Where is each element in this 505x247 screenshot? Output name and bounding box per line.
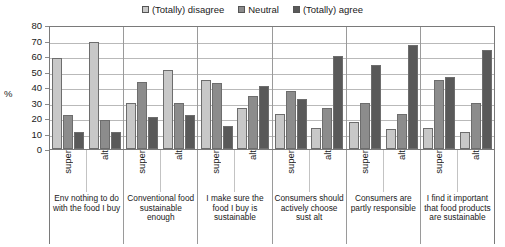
y-axis-tick-label: 10: [31, 130, 42, 140]
subgroup-tick-alt: alt: [87, 150, 123, 192]
bar-neutral: [286, 91, 296, 149]
subgroup-tick-alt: alt: [310, 150, 346, 192]
bar-neutral: [397, 114, 407, 149]
bar-agree: [111, 132, 121, 149]
bar-agree: [371, 65, 381, 149]
bar-subgroup-alt: [161, 27, 198, 150]
bar-subgroup-super: [273, 27, 310, 150]
subgroup-tick-alt: alt: [235, 150, 271, 192]
bar-neutral: [63, 115, 73, 149]
bar-neutral: [100, 120, 110, 149]
y-axis-tick-mark: [45, 26, 49, 27]
y-axis-tick-label: 30: [31, 99, 42, 109]
bar-group: [198, 27, 272, 150]
legend-label-neutral: Neutral: [248, 4, 279, 15]
legend-item-agree: (Totally) agree: [293, 4, 363, 15]
subgroup-tick-group: superalt: [50, 150, 124, 192]
y-axis-tick-label: 50: [31, 68, 42, 78]
legend-item-neutral: Neutral: [238, 4, 279, 15]
bar-disagree: [89, 42, 99, 149]
subgroup-tick-group: superalt: [273, 150, 347, 192]
subgroup-tick-label: alt: [248, 150, 258, 162]
bar-disagree: [237, 108, 247, 149]
y-axis-tick-label: 60: [31, 52, 42, 62]
chart-legend: (Totally) disagree Neutral (Totally) agr…: [0, 4, 505, 15]
bar-agree: [185, 115, 195, 149]
bar-disagree: [201, 80, 211, 149]
subgroup-tick-super: super: [421, 150, 458, 192]
category-label: Env nothing to do with the food I buy: [50, 192, 124, 244]
subgroup-tick-label: alt: [323, 150, 333, 162]
category-label: Consumers should actively choose sust al…: [273, 192, 347, 244]
subgroup-tick-label: super: [137, 150, 147, 176]
bar-neutral: [137, 82, 147, 149]
subgroup-tick-label: super: [211, 150, 221, 176]
bar-subgroup-alt: [87, 27, 124, 150]
y-axis-tick-mark: [45, 88, 49, 89]
subgroup-tick-group: superalt: [124, 150, 198, 192]
y-axis-tick-mark: [45, 73, 49, 74]
category-label: Consumers are partly responsible: [347, 192, 421, 244]
bar-subgroup-alt: [235, 27, 272, 150]
y-axis-tick-label: 40: [31, 83, 42, 93]
bar-agree: [445, 77, 455, 149]
bar-neutral: [174, 103, 184, 149]
bar-group: [421, 27, 494, 150]
plot-area: [49, 26, 495, 150]
legend-item-disagree: (Totally) disagree: [142, 4, 224, 15]
subgroup-tick-super: super: [198, 150, 235, 192]
subgroup-tick-label: alt: [174, 150, 184, 162]
bar-neutral: [360, 103, 370, 149]
bar-neutral: [434, 80, 444, 149]
bar-subgroup-super: [50, 27, 87, 150]
subgroup-tick-super: super: [273, 150, 310, 192]
bar-disagree: [311, 128, 321, 149]
bar-subgroup-super: [421, 27, 458, 150]
bar-groups: [50, 27, 494, 150]
y-axis-tick-labels: 80706050403020100: [20, 26, 42, 150]
subgroup-tick-label: alt: [471, 150, 481, 162]
bar-disagree: [163, 70, 173, 149]
bar-agree: [259, 86, 269, 149]
bar-agree: [333, 56, 343, 149]
subgroup-tick-super: super: [124, 150, 161, 192]
bar-neutral: [212, 83, 222, 149]
bar-disagree: [423, 128, 433, 149]
bar-subgroup-alt: [309, 27, 346, 150]
subgroup-tick-label: super: [434, 150, 444, 176]
bar-agree: [482, 50, 492, 149]
subgroup-tick-super: super: [50, 150, 87, 192]
subgroup-tick-label: super: [360, 150, 370, 176]
subgroup-tick-group: superalt: [421, 150, 494, 192]
bar-agree: [223, 126, 233, 149]
legend-swatch-disagree-icon: [142, 6, 149, 13]
bar-disagree: [460, 132, 470, 149]
legend-swatch-agree-icon: [293, 6, 300, 13]
y-axis-tick-label: 70: [31, 37, 42, 47]
subgroup-tick-alt: alt: [458, 150, 494, 192]
bar-agree: [408, 45, 418, 149]
bar-disagree: [126, 103, 136, 149]
bar-subgroup-alt: [457, 27, 494, 150]
bar-disagree: [349, 122, 359, 149]
bar-subgroup-super: [198, 27, 235, 150]
y-axis-tick-label: 80: [31, 21, 42, 31]
subgroup-tick-super: super: [347, 150, 384, 192]
y-axis-tick-label: 0: [37, 145, 42, 155]
category-label: I make sure the food I buy is sustainabl…: [198, 192, 272, 244]
bar-group: [124, 27, 198, 150]
subgroup-tick-band: superaltsuperaltsuperaltsuperaltsuperalt…: [49, 150, 495, 192]
subgroup-tick-label: super: [286, 150, 296, 176]
subgroup-tick-alt: alt: [384, 150, 420, 192]
subgroup-tick-group: superalt: [347, 150, 421, 192]
bar-disagree: [52, 58, 62, 150]
subgroup-tick-label: alt: [397, 150, 407, 162]
bar-disagree: [275, 114, 285, 149]
legend-label-disagree: (Totally) disagree: [152, 4, 224, 15]
bar-neutral: [248, 96, 258, 149]
bar-neutral: [322, 108, 332, 149]
y-axis-tick-mark: [45, 104, 49, 105]
y-axis-tick-mark: [45, 57, 49, 58]
subgroup-tick-label: super: [63, 150, 73, 176]
category-label: I find it important that food products a…: [421, 192, 494, 244]
